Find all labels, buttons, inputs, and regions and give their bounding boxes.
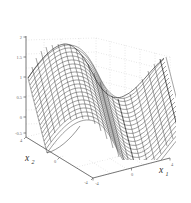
mesh-surface xyxy=(28,44,185,174)
x2-tick-label: 4 xyxy=(20,138,23,143)
x2-axis-label: x 2 xyxy=(24,153,35,165)
z-tick-label: -0.5 xyxy=(15,131,23,136)
z-tick-label: 1 xyxy=(20,75,22,80)
x1-axis-label-subscript: 1 xyxy=(166,171,169,177)
surface-plot-figure: 2 1.5 1 0.5 0 -0.5 4 0 -4 -4 0 4 xyxy=(0,0,191,203)
x1-tick-label: 4 xyxy=(171,162,174,167)
x1-tick-label: 0 xyxy=(131,172,134,177)
x2-tick-label: -4 xyxy=(84,180,88,185)
x2-axis-label-text: x xyxy=(24,153,30,163)
x1-axis-label-text: x xyxy=(158,165,164,175)
z-tick-label: 0 xyxy=(20,115,23,120)
x1-axis-label: x 1 xyxy=(158,165,169,177)
plot-canvas: 2 1.5 1 0.5 0 -0.5 4 0 -4 -4 0 4 xyxy=(0,0,191,203)
z-tick-label: 1.5 xyxy=(17,55,23,60)
x2-axis-label-subscript: 2 xyxy=(32,159,35,165)
x2-tick-label: 0 xyxy=(54,159,57,164)
z-tick-label: 2 xyxy=(20,35,22,40)
z-tick-label: 0.5 xyxy=(17,95,23,100)
x1-tick-label: -4 xyxy=(95,181,99,186)
z-axis-tick-labels: 2 1.5 1 0.5 0 -0.5 xyxy=(15,35,23,136)
